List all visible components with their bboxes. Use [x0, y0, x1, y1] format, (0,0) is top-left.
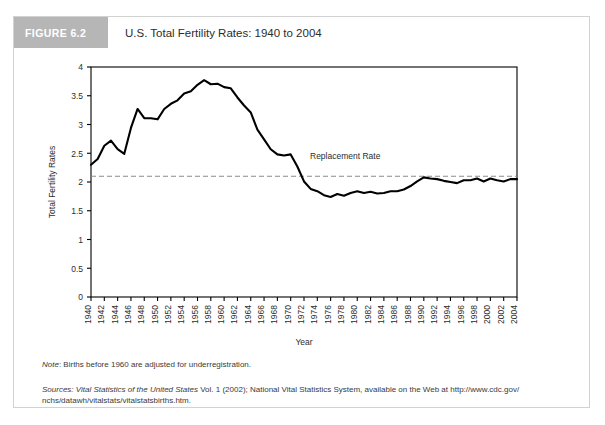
y-axis-tick-label: 3.5	[71, 91, 83, 101]
y-axis-tick-label: 2.5	[71, 149, 83, 159]
x-axis-tick-label: 1986	[389, 305, 399, 324]
x-axis-tick-label: 1944	[110, 305, 120, 324]
y-axis-tick-label: 0.5	[71, 264, 83, 274]
figure-header: FIGURE 6.2 U.S. Total Fertility Rates: 1…	[14, 17, 589, 48]
x-axis-tick-label: 1964	[243, 305, 253, 324]
note-label: Note	[42, 360, 59, 369]
x-axis-tick-label: 1950	[150, 305, 160, 324]
y-axis-tick-label: 4	[78, 62, 83, 72]
sources-url-part: nchs/datawh/vitalstats/vitalstatsbirths.…	[42, 396, 191, 405]
x-axis-tick-label: 1954	[176, 305, 186, 324]
x-axis-tick-label: 1948	[136, 305, 146, 324]
y-axis-tick-label: 0	[78, 292, 83, 302]
chart-area: 00.511.522.533.54Total Fertility Rates19…	[14, 48, 591, 348]
figure-title: U.S. Total Fertility Rates: 1940 to 2004	[108, 17, 589, 48]
x-axis-tick-label: 1982	[363, 305, 373, 324]
fertility-rate-line	[91, 80, 517, 197]
x-axis-title: Year	[295, 337, 312, 347]
y-axis-title: Total Fertility Rates	[47, 146, 57, 218]
x-axis-tick-label: 1970	[283, 305, 293, 324]
note-text: : Births before 1960 are adjusted for un…	[59, 360, 251, 369]
y-axis-tick-label: 1	[78, 235, 83, 245]
x-axis-tick-label: 1956	[190, 305, 200, 324]
x-axis-tick-label: 1978	[336, 305, 346, 324]
sources-label: Sources	[42, 385, 71, 394]
x-axis-tick-label: 2004	[509, 305, 519, 324]
y-axis-tick-label: 3	[78, 120, 83, 130]
figure-notes: Note: Births before 1960 are adjusted fo…	[42, 359, 562, 407]
x-axis-tick-label: 1940	[83, 305, 93, 324]
x-axis-tick-label: 1998	[469, 305, 479, 324]
x-axis-tick-label: 1942	[96, 305, 106, 324]
replacement-rate-label: Replacement Rate	[310, 151, 381, 161]
x-axis-tick-label: 1958	[203, 305, 213, 324]
x-axis-tick-label: 1996	[456, 305, 466, 324]
x-axis-tick-label: 1980	[349, 305, 359, 324]
fertility-rate-line-chart: 00.511.522.533.54Total Fertility Rates19…	[14, 48, 591, 348]
x-axis-tick-label: 1968	[269, 305, 279, 324]
x-axis-tick-label: 1966	[256, 305, 266, 324]
x-axis-tick-label: 2002	[496, 305, 506, 324]
y-axis-tick-label: 1.5	[71, 206, 83, 216]
sources-roman-part: Vol. 1 (2002); National Vital Statistics…	[198, 385, 519, 394]
x-axis-tick-label: 1990	[416, 305, 426, 324]
x-axis-tick-label: 1992	[429, 305, 439, 324]
x-axis-tick-label: 1974	[309, 305, 319, 324]
x-axis-tick-label: 1972	[296, 305, 306, 324]
sources-italic-part: : Vital Statistics of the United States	[71, 385, 198, 394]
x-axis-tick-label: 1946	[123, 305, 133, 324]
x-axis-tick-label: 1962	[229, 305, 239, 324]
x-axis-tick-label: 1988	[403, 305, 413, 324]
sources-line: Sources: Vital Statistics of the United …	[42, 384, 562, 407]
x-axis-tick-label: 1994	[442, 305, 452, 324]
y-axis-tick-label: 2	[78, 177, 83, 187]
x-axis-tick-label: 2000	[482, 305, 492, 324]
figure-number-badge: FIGURE 6.2	[14, 17, 108, 48]
figure-card: FIGURE 6.2 U.S. Total Fertility Rates: 1…	[13, 16, 590, 408]
x-axis-tick-label: 1984	[376, 305, 386, 324]
note-line: Note: Births before 1960 are adjusted fo…	[42, 359, 562, 371]
x-axis-tick-label: 1976	[323, 305, 333, 324]
x-axis-tick-label: 1952	[163, 305, 173, 324]
x-axis-tick-label: 1960	[216, 305, 226, 324]
